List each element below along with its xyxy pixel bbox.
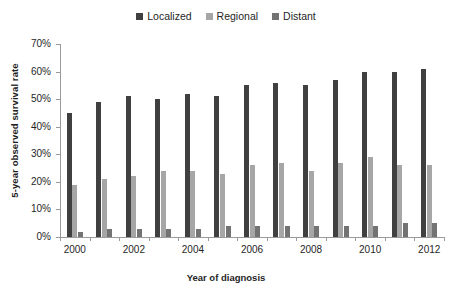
- bar-regional-2005: [220, 174, 225, 237]
- chart-legend: LocalizedRegionalDistant: [0, 11, 452, 22]
- legend-swatch-icon: [206, 13, 213, 20]
- x-tick-mark-icon: [444, 237, 445, 241]
- legend-item-localized[interactable]: Localized: [136, 11, 191, 22]
- bar-regional-2002: [131, 176, 136, 237]
- x-tick-mark-icon: [296, 237, 297, 241]
- legend-label: Regional: [217, 11, 258, 22]
- x-tick-mark-icon: [385, 237, 386, 241]
- x-tick-mark-icon: [149, 237, 150, 241]
- bar-localized-2004: [185, 94, 190, 237]
- y-tick-label: 30%: [31, 147, 51, 160]
- x-tick-label: 2006: [241, 244, 263, 256]
- bar-distant-2009: [344, 226, 349, 237]
- legend-item-distant[interactable]: Distant: [272, 11, 316, 22]
- x-tick-mark-icon: [178, 237, 179, 241]
- bar-distant-2007: [285, 226, 290, 237]
- bar-distant-2006: [255, 226, 260, 237]
- x-tick-mark-icon: [414, 237, 415, 241]
- bar-distant-2012: [432, 223, 437, 237]
- bar-regional-2011: [397, 165, 402, 237]
- bar-localized-2006: [244, 85, 249, 237]
- y-tick-mark-icon: [56, 209, 60, 210]
- legend-item-regional[interactable]: Regional: [206, 11, 258, 22]
- bar-distant-2003: [166, 229, 171, 237]
- x-tick-mark-icon: [326, 237, 327, 241]
- y-tick-label: 20%: [31, 175, 51, 188]
- x-tick-mark-icon: [237, 237, 238, 241]
- bar-localized-2012: [421, 69, 426, 237]
- x-tick-label: 2012: [418, 244, 440, 256]
- x-tick-mark-icon: [60, 237, 61, 241]
- bar-regional-2001: [102, 179, 107, 237]
- bar-distant-2005: [226, 226, 231, 237]
- x-tick-label: 2000: [64, 244, 86, 256]
- bar-localized-2005: [214, 96, 219, 237]
- legend-label: Localized: [147, 11, 191, 22]
- y-tick-label: 0%: [37, 230, 51, 243]
- bar-regional-2000: [72, 185, 77, 237]
- y-tick-mark-icon: [56, 72, 60, 73]
- plot-area: 0%10%20%30%40%50%60%70% 2000200220042006…: [60, 44, 444, 237]
- bar-localized-2011: [392, 72, 397, 237]
- bar-regional-2010: [368, 157, 373, 237]
- bar-localized-2002: [126, 96, 131, 237]
- y-axis-line: [60, 44, 61, 238]
- x-tick-mark-icon: [355, 237, 356, 241]
- bar-distant-2002: [137, 229, 142, 237]
- x-tick-label: 2002: [123, 244, 145, 256]
- bar-regional-2008: [309, 171, 314, 237]
- bar-localized-2001: [96, 102, 101, 237]
- bar-regional-2004: [190, 171, 195, 237]
- y-tick-mark-icon: [56, 127, 60, 128]
- bar-localized-2009: [333, 80, 338, 237]
- bar-distant-2000: [78, 232, 83, 238]
- x-tick-label: 2004: [182, 244, 204, 256]
- bar-localized-2010: [362, 72, 367, 237]
- x-tick-label: 2010: [359, 244, 381, 256]
- bar-localized-2008: [303, 85, 308, 237]
- y-tick-mark-icon: [56, 99, 60, 100]
- bar-distant-2010: [373, 226, 378, 237]
- y-tick-label: 40%: [31, 120, 51, 133]
- bar-localized-2003: [155, 99, 160, 237]
- bar-distant-2008: [314, 226, 319, 237]
- legend-label: Distant: [283, 11, 316, 22]
- bar-regional-2012: [427, 165, 432, 237]
- y-tick-label: 60%: [31, 65, 51, 78]
- bar-regional-2003: [161, 171, 166, 237]
- x-tick-mark-icon: [267, 237, 268, 241]
- bar-regional-2006: [250, 165, 255, 237]
- x-axis-title: Year of diagnosis: [0, 272, 452, 283]
- y-tick-mark-icon: [56, 44, 60, 45]
- y-tick-mark-icon: [56, 182, 60, 183]
- y-tick-mark-icon: [56, 154, 60, 155]
- legend-swatch-icon: [136, 13, 143, 20]
- x-tick-mark-icon: [90, 237, 91, 241]
- bar-localized-2007: [273, 83, 278, 237]
- x-tick-mark-icon: [208, 237, 209, 241]
- x-tick-label: 2008: [300, 244, 322, 256]
- bar-regional-2009: [338, 163, 343, 237]
- bar-localized-2000: [67, 113, 72, 237]
- survival-rate-bar-chart: LocalizedRegionalDistant 5-year observed…: [0, 0, 452, 291]
- bar-distant-2001: [107, 229, 112, 237]
- x-tick-mark-icon: [119, 237, 120, 241]
- y-tick-label: 50%: [31, 92, 51, 105]
- y-tick-label: 70%: [31, 37, 51, 50]
- y-axis-title: 5-year observed survival rate: [9, 31, 20, 231]
- bar-regional-2007: [279, 163, 284, 237]
- y-tick-label: 10%: [31, 202, 51, 215]
- bar-distant-2011: [403, 223, 408, 237]
- bar-distant-2004: [196, 229, 201, 237]
- legend-swatch-icon: [272, 13, 279, 20]
- x-axis-line: [60, 237, 444, 238]
